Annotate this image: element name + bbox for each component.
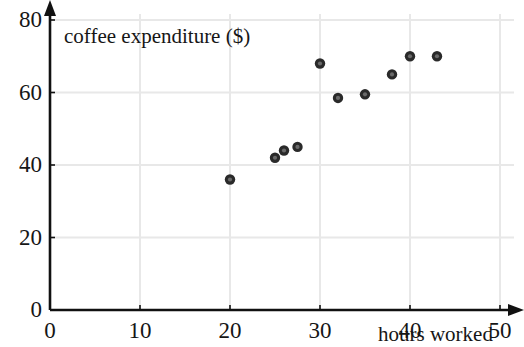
y-tick-label: 40 — [19, 152, 42, 178]
x-tick-label: 50 — [489, 318, 512, 344]
data-point — [225, 174, 235, 184]
y-tick-label: 20 — [19, 225, 42, 251]
data-point — [333, 93, 343, 103]
gridlines — [50, 14, 514, 310]
x-tick-label: 40 — [399, 318, 422, 344]
x-tick-label: 10 — [129, 318, 152, 344]
data-point — [315, 58, 325, 68]
y-axis-title: coffee expenditure ($) — [64, 24, 250, 49]
data-point — [360, 89, 370, 99]
data-point — [270, 153, 280, 163]
x-tick-label: 0 — [44, 318, 56, 344]
data-point — [279, 145, 289, 155]
data-point — [292, 142, 302, 152]
data-point — [405, 51, 415, 61]
x-tick-label: 30 — [309, 318, 332, 344]
y-tick-label: 0 — [31, 297, 43, 323]
x-axis-title: hours worked — [378, 322, 493, 347]
x-tick-label: 20 — [219, 318, 242, 344]
plot-canvas — [0, 0, 524, 347]
data-point — [432, 51, 442, 61]
y-tick-label: 60 — [19, 80, 42, 106]
scatter-plot: coffee expenditure ($) hours worked 0204… — [0, 0, 524, 347]
y-tick-label: 80 — [19, 7, 42, 33]
data-point — [387, 69, 397, 79]
